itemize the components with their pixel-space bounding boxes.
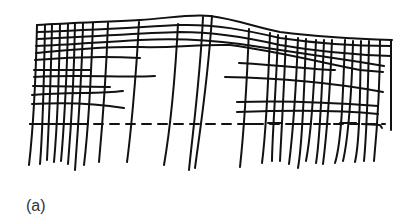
v-line: [127, 22, 139, 162]
figure-caption: (a): [26, 197, 46, 215]
v-line: [364, 41, 369, 161]
h-line: [237, 101, 378, 106]
v-line: [272, 35, 278, 161]
h-line: [32, 103, 124, 108]
v-line: [47, 24, 52, 160]
v-line: [355, 41, 361, 162]
h-line: [34, 76, 155, 77]
h-line: [32, 91, 123, 95]
mesh-sketch: [0, 0, 417, 223]
v-line: [164, 24, 178, 165]
v-line: [374, 40, 380, 161]
v-line: [240, 29, 249, 167]
h-line: [237, 111, 378, 114]
v-line: [75, 23, 83, 170]
h-line: [239, 63, 335, 70]
v-line: [262, 33, 270, 163]
